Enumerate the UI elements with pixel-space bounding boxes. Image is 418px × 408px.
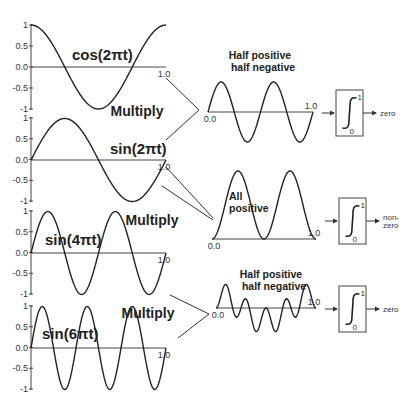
input-waveform-panels: 10.50.0-0.5-11.0cos(2πt)10.50.0-0.5-11.0… (12, 20, 170, 394)
y-tick-label: 0.5 (15, 134, 28, 144)
y-tick-label: 0.5 (15, 41, 28, 51)
y-tick-label: 1 (23, 113, 28, 123)
product-note: Half positive (229, 49, 292, 61)
end-label: 1.0 (305, 101, 318, 111)
y-tick-label: 1 (23, 301, 28, 311)
y-tick-label: -1 (20, 289, 28, 299)
function-label: cos(2πt) (72, 46, 133, 63)
multiply-labels: MultiplyMultiplyMultiply (111, 103, 179, 321)
start-label: 0.0 (212, 310, 225, 320)
end-label: 1.0 (308, 297, 321, 307)
integral-result: zero (383, 221, 399, 230)
connector-cos-to-multiply (166, 78, 199, 140)
integrator-blocks: 10zero10non-zero10zero (336, 90, 399, 332)
connector-sin4-sin6 (170, 295, 209, 338)
y-tick-label: 0.0 (15, 343, 28, 353)
function-label: sin(6πt) (42, 325, 98, 342)
start-label: 0.0 (204, 114, 217, 124)
product-note: half negative (242, 280, 306, 292)
y-tick-label: 1 (23, 206, 28, 216)
product-note: half negative (231, 61, 295, 73)
lower-limit: 0 (350, 127, 355, 136)
y-tick-label: 0.0 (15, 155, 28, 165)
product-note: All (229, 190, 243, 202)
y-tick-label: 0.5 (15, 227, 28, 237)
y-tick-label: -0.5 (12, 363, 28, 373)
function-label: sin(2πt) (110, 140, 166, 157)
integrator-block: 10zero (336, 90, 396, 136)
y-tick-label: 0.5 (15, 322, 28, 332)
product-panel-sin2pt_x_sin2pt: 0.01.0Allpositive (208, 171, 338, 251)
y-tick-label: -0.5 (12, 83, 28, 93)
function-label: sin(4πt) (45, 231, 101, 248)
arrowhead-in-icon (333, 307, 338, 312)
arrowhead-out-icon (372, 111, 377, 116)
input-panel-sin2pt: 10.50.0-0.5-11.0sin(2πt) (12, 113, 170, 206)
product-waveform-panels: 0.01.0Half positivehalf negative0.01.0Al… (204, 49, 338, 332)
y-tick-label: -0.5 (12, 268, 28, 278)
arrowhead-out-icon (375, 219, 380, 224)
upper-limit: 1 (361, 289, 366, 298)
upper-limit: 1 (358, 93, 363, 102)
product-note: positive (229, 202, 269, 214)
lower-limit: 0 (353, 323, 358, 332)
multiply-label: Multiply (126, 212, 179, 228)
y-tick-label: 1 (23, 20, 28, 30)
integral-result: zero (380, 109, 396, 118)
integrator-block: 10non-zero (339, 198, 399, 244)
arrowhead-in-icon (330, 111, 335, 116)
orthogonality-diagram: 10.50.0-0.5-11.0cos(2πt)10.50.0-0.5-11.0… (0, 0, 418, 408)
integrator-block: 10zero (339, 286, 399, 332)
input-panel-cos2pt: 10.50.0-0.5-11.0cos(2πt) (12, 20, 170, 114)
connector-sin2-a (166, 167, 213, 218)
end-label: 1.0 (308, 228, 321, 238)
x-end-label: 1.0 (158, 69, 171, 79)
y-tick-label: -1 (20, 196, 28, 206)
y-tick-label: 0.0 (15, 62, 28, 72)
integral-result: zero (383, 305, 399, 314)
upper-limit: 1 (361, 201, 366, 210)
arrowhead-out-icon (375, 307, 380, 312)
start-label: 0.0 (208, 241, 221, 251)
product-panel-sin4pt_x_sin6pt: 0.01.0Half positivehalf negative (212, 268, 338, 332)
multiply-label: Multiply (122, 305, 175, 321)
y-tick-label: 0.0 (15, 248, 28, 258)
y-tick-label: -1 (20, 384, 28, 394)
product-panel-cos2pt_x_sin2pt: 0.01.0Half positivehalf negative (204, 49, 335, 142)
lower-limit: 0 (353, 235, 358, 244)
arrowhead-in-icon (333, 219, 338, 224)
y-tick-label: -0.5 (12, 175, 28, 185)
multiply-label: Multiply (111, 103, 164, 119)
product-note: Half positive (240, 268, 303, 280)
